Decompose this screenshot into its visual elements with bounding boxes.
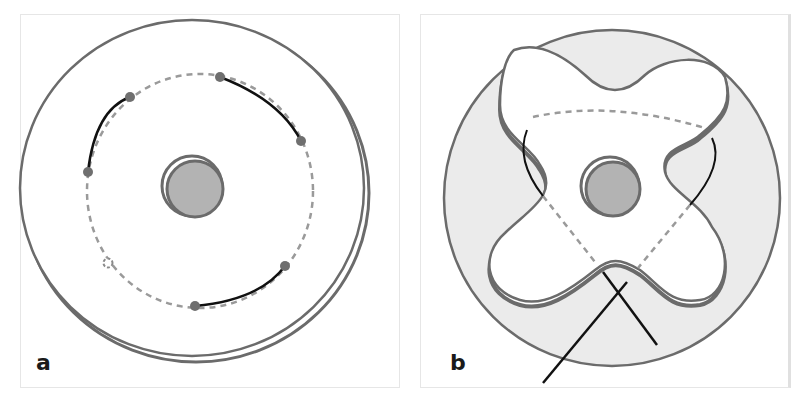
panel-a-diagram <box>20 20 369 362</box>
panel-b-diagram <box>444 30 780 383</box>
marker <box>83 167 93 177</box>
marker <box>125 92 135 102</box>
panel-label-b: b <box>450 352 466 374</box>
center-disc <box>586 162 640 216</box>
marker-hollow <box>104 259 113 268</box>
center-disc <box>167 161 223 217</box>
marker <box>296 136 306 146</box>
marker <box>280 261 290 271</box>
marker <box>190 301 200 311</box>
diagram-canvas <box>0 0 801 412</box>
marker <box>215 72 225 82</box>
panel-label-a: a <box>36 352 51 374</box>
